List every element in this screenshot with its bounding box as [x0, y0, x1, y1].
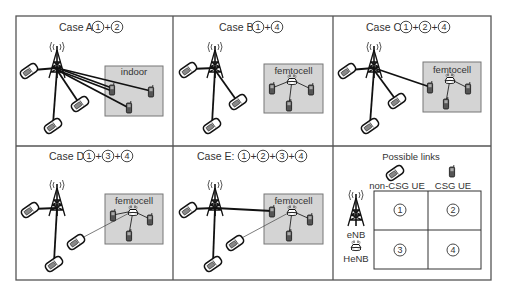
svg-text:+: + [115, 150, 121, 162]
panel-title: Case C: 1 + 2 + 4 [366, 21, 450, 33]
legend-title: Possible links [382, 151, 440, 162]
flip-phone-icon [178, 61, 198, 79]
panel-case-e: Case E: 1 + 2 + 3 + 4 femtocell [178, 150, 323, 273]
candybar-phone-icon [465, 82, 470, 94]
svg-text:4: 4 [441, 22, 446, 32]
col-header-csg: CSG UE [435, 180, 471, 191]
svg-text:4: 4 [274, 22, 279, 32]
svg-text:1: 1 [241, 151, 246, 161]
panel-title: Case D: 1 + 3 + 4 [49, 150, 133, 162]
cell-tower-icon [207, 42, 223, 78]
cell-tower-icon [49, 42, 65, 78]
svg-text:2: 2 [114, 22, 119, 32]
svg-text:+: + [432, 21, 438, 33]
svg-text:+: + [96, 150, 102, 162]
candybar-phone-icon [269, 82, 274, 94]
cell-tower-icon [207, 180, 223, 216]
svg-text:4: 4 [124, 151, 129, 161]
room-label: indoor [121, 66, 147, 77]
svg-text:Case E:: Case E: [197, 150, 234, 162]
link-4: 4 [450, 245, 455, 255]
col-header-non-csg: non-CSG UE [369, 180, 424, 191]
flip-phone-icon [70, 95, 90, 113]
svg-text:4: 4 [298, 151, 303, 161]
room-label: femtocell [274, 195, 312, 206]
svg-text:+: + [289, 150, 295, 162]
figure-frame [16, 16, 491, 280]
svg-text:+: + [265, 21, 271, 33]
candybar-phone-icon [427, 81, 432, 93]
figure-canvas: Case A: 1 + 2 indoor Case B: 1 + [0, 0, 505, 294]
flip-phone-icon [20, 201, 40, 219]
cell-tower-icon [49, 180, 65, 216]
legend-possible-links: Possible links non-CSG UE CSG UE eNB HeN… [343, 151, 481, 269]
svg-text:+: + [251, 150, 257, 162]
candybar-phone-icon [147, 213, 152, 225]
flip-phone-icon [66, 233, 86, 251]
flip-phone-icon [228, 93, 248, 111]
candybar-phone-icon [307, 213, 312, 225]
candybar-phone-icon [443, 97, 448, 109]
flip-phone-icon [19, 62, 39, 80]
flip-phone-icon [360, 117, 380, 135]
candybar-phone-icon [269, 205, 274, 217]
svg-text:+: + [270, 150, 276, 162]
candybar-phone-icon [286, 229, 291, 241]
svg-text:3: 3 [279, 151, 284, 161]
room-label: femtocell [115, 195, 153, 206]
link-1: 1 [397, 205, 402, 215]
panel-case-a: Case A: 1 + 2 indoor [19, 21, 163, 135]
svg-text:1: 1 [86, 151, 91, 161]
svg-text:2: 2 [422, 22, 427, 32]
flip-phone-icon [178, 201, 198, 219]
svg-text:Case C:: Case C: [366, 21, 404, 33]
svg-text:3: 3 [105, 151, 110, 161]
candybar-phone-icon [308, 83, 313, 95]
flip-phone-icon [225, 234, 245, 252]
link-2: 2 [450, 205, 455, 215]
candybar-phone-icon [109, 83, 114, 95]
svg-text:1: 1 [403, 22, 408, 32]
flip-phone-icon [202, 117, 222, 135]
flip-phone-icon [203, 255, 223, 273]
svg-text:+: + [105, 21, 111, 33]
row-header-henb: HeNB [343, 253, 368, 264]
panel-title: Case B: 1 + 4 [219, 21, 283, 33]
flip-phone-icon [43, 117, 63, 135]
svg-text:Case A:: Case A: [59, 21, 96, 33]
panel-case-c: Case C: 1 + 2 + 4 femtocell [337, 21, 481, 135]
row-header-enb: eNB [347, 229, 365, 240]
svg-text:+: + [413, 21, 419, 33]
candybar-phone-icon [126, 229, 131, 241]
svg-text:2: 2 [260, 151, 265, 161]
panel-case-b: Case B: 1 + 4 femtocell [178, 21, 323, 135]
cell-tower-icon [348, 190, 364, 226]
candybar-phone-icon [286, 99, 291, 111]
panel-case-d: Case D: 1 + 3 + 4 femtocell [20, 150, 163, 273]
svg-text:Case B:: Case B: [219, 21, 256, 33]
room-label: femtocell [433, 64, 471, 75]
candybar-phone-icon [148, 85, 153, 97]
flip-phone-icon [44, 255, 64, 273]
panel-title: Case A: 1 + 2 [59, 21, 123, 33]
svg-text:Case D:: Case D: [49, 150, 87, 162]
svg-text:1: 1 [95, 22, 100, 32]
flip-phone-icon [387, 92, 407, 110]
henb-router-icon [351, 241, 361, 251]
svg-text:1: 1 [255, 22, 260, 32]
link-3: 3 [397, 245, 402, 255]
candybar-phone-icon [449, 165, 454, 177]
candybar-phone-icon [126, 101, 131, 113]
flip-phone-icon [337, 62, 357, 80]
candybar-phone-icon [110, 209, 115, 221]
cell-tower-icon [366, 42, 382, 78]
room-label: femtocell [274, 65, 312, 76]
panel-title: Case E: 1 + 2 + 3 + 4 [197, 150, 307, 162]
